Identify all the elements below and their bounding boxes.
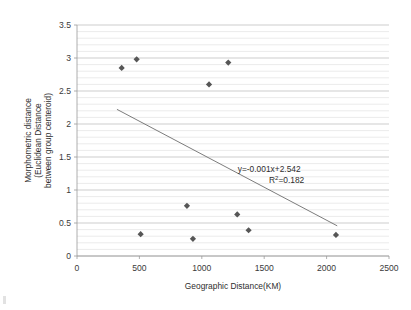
y-tick-label: 3 <box>66 53 71 63</box>
data-point-marker <box>246 227 252 233</box>
y-tick-label: 2 <box>66 119 71 129</box>
y-tick-label: 1 <box>66 185 71 195</box>
gridlines-minor <box>77 25 389 256</box>
y-axis-title-line: between group centeroid) <box>43 93 53 188</box>
x-tick-label: 2500 <box>379 263 398 273</box>
x-tick-label: 500 <box>132 263 147 273</box>
x-tick-label: 1500 <box>255 263 274 273</box>
data-point-marker <box>134 56 140 62</box>
x-tick-label: 0 <box>75 263 80 273</box>
equation-text: y=-0.001x+2.542 <box>238 164 301 174</box>
equation-annotation: y=-0.001x+2.542R2=0.182 <box>238 164 305 186</box>
y-axis <box>74 25 77 256</box>
data-point-marker <box>119 65 125 71</box>
y-axis-title-line: (Euclidean Distance <box>33 103 43 178</box>
y-tick-label: 0 <box>66 251 71 261</box>
scan-artifact <box>3 296 6 304</box>
regression-trendline <box>117 109 337 225</box>
x-tick-labels: 05001000150020002500 <box>75 263 399 273</box>
x-axis <box>77 256 389 259</box>
scatter-chart: 00.511.522.533.5 05001000150020002500 Mo… <box>0 0 411 310</box>
gridlines-major <box>77 25 389 256</box>
data-point-marker <box>190 236 196 242</box>
data-point-marker <box>184 203 190 209</box>
x-tick-label: 2000 <box>317 263 336 273</box>
x-axis-title: Geographic Distance(KM) <box>185 281 282 291</box>
y-tick-label: 3.5 <box>59 20 71 30</box>
data-point-marker <box>333 232 339 238</box>
trendline <box>117 109 337 225</box>
data-point-marker <box>206 81 212 87</box>
y-tick-label: 1.5 <box>59 152 71 162</box>
y-tick-label: 0.5 <box>59 218 71 228</box>
y-axis-title: Morphometric distance(Euclidean Distance… <box>23 93 53 188</box>
chart-canvas: 00.511.522.533.5 05001000150020002500 Mo… <box>0 0 411 310</box>
y-tick-labels: 00.511.522.533.5 <box>59 20 71 261</box>
y-axis-title-line: Morphometric distance <box>23 98 33 183</box>
r-squared-text: R2=0.182 <box>269 175 305 185</box>
y-tick-label: 2.5 <box>59 86 71 96</box>
x-axis-title: Geographic Distance(KM) <box>185 281 282 291</box>
x-tick-label: 1000 <box>192 263 211 273</box>
